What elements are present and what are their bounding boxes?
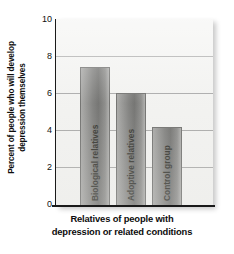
plot-area: Biological relatives Adoptive relatives … bbox=[56, 19, 213, 206]
bar-chart-figure: Percent of people who will develop depre… bbox=[0, 0, 234, 254]
x-axis-title: Relatives of people with depression or r… bbox=[18, 213, 226, 238]
x-axis-title-line1: Relatives of people with bbox=[70, 213, 173, 224]
bar-label-control-group: Control group bbox=[162, 145, 172, 201]
bar-label-biological-relatives: Biological relatives bbox=[90, 125, 100, 201]
y-tick-2: 2 bbox=[34, 162, 52, 172]
x-axis-line bbox=[52, 205, 215, 207]
y-tick-10: 10 bbox=[34, 14, 52, 24]
y-tick-6: 6 bbox=[34, 88, 52, 98]
bar-label-adoptive-relatives: Adoptive relatives bbox=[126, 129, 136, 201]
bar-biological-relatives[interactable]: Biological relatives bbox=[80, 67, 110, 206]
y-tick-0: 0 bbox=[34, 199, 52, 209]
x-axis-title-line2: depression or related conditions bbox=[18, 226, 226, 239]
y-tick-4: 4 bbox=[34, 125, 52, 135]
y-axis-title-line2: depression themselves bbox=[17, 41, 28, 174]
y-axis-line bbox=[55, 19, 56, 207]
bar-control-group[interactable]: Control group bbox=[152, 127, 182, 206]
y-tick-8: 8 bbox=[34, 51, 52, 61]
bar-adoptive-relatives[interactable]: Adoptive relatives bbox=[116, 93, 146, 206]
y-axis-title-text: Percent of people who will develop depre… bbox=[7, 41, 28, 174]
y-axis-title-line1: Percent of people who will develop bbox=[7, 41, 16, 174]
y-axis-title: Percent of people who will develop depre… bbox=[0, 0, 34, 215]
gridline-8 bbox=[56, 56, 213, 57]
